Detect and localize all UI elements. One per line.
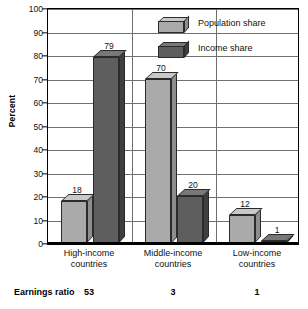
vertical-gridline: [132, 9, 133, 244]
x-axis-category-label: Low-incomecountries: [209, 248, 305, 270]
category-label-line: countries: [125, 259, 221, 270]
legend-label-income-share: Income share: [198, 43, 253, 53]
dark-cube-icon: [158, 42, 184, 58]
y-tick-label: 30: [0, 169, 43, 178]
plot-area: 0102030405060708090100 18797020121 Popul…: [47, 8, 299, 245]
legend-item-income-share[interactable]: Income share: [158, 38, 308, 63]
light-cube-icon: [158, 17, 184, 33]
bar-side-face: [119, 51, 125, 243]
y-tick-label: 80: [0, 52, 43, 61]
y-tick-label: 40: [0, 146, 43, 155]
y-tick-label: 0: [0, 240, 43, 249]
bar[interactable]: [177, 196, 203, 243]
y-tick-label: 60: [0, 99, 43, 108]
y-tick-label: 100: [0, 5, 43, 14]
bar-front-face: [93, 57, 119, 243]
category-label-line: countries: [41, 259, 137, 270]
earnings-ratio-value: 3: [148, 287, 198, 297]
y-tick-label: 10: [0, 216, 43, 225]
earnings-ratio-value: 1: [232, 287, 282, 297]
bar-side-face: [203, 189, 209, 243]
x-axis-category-label: High-incomecountries: [41, 248, 137, 270]
bar-value-label: 79: [89, 42, 129, 51]
bar-front-face: [229, 215, 255, 243]
bar-value-label: 70: [141, 64, 181, 73]
bar[interactable]: [229, 215, 255, 243]
bar-value-label: 18: [57, 186, 97, 195]
bar[interactable]: [145, 79, 171, 244]
bar-value-label: 1: [257, 226, 297, 235]
bar[interactable]: [61, 201, 87, 243]
bar[interactable]: [93, 57, 119, 243]
legend-item-population-share[interactable]: Population share: [158, 13, 308, 38]
axis-baseline: [48, 242, 298, 244]
category-label-line: countries: [209, 259, 305, 270]
y-tick-label: 90: [0, 28, 43, 37]
earnings-ratio-value: 53: [64, 287, 114, 297]
category-label-line: Middle-income: [125, 248, 221, 259]
category-label-line: High-income: [41, 248, 137, 259]
bar-front-face: [61, 201, 87, 243]
bar-front-face: [145, 79, 171, 244]
gridline: [48, 9, 298, 10]
legend: Population share Income share: [158, 13, 308, 63]
bar-value-label: 12: [225, 200, 265, 209]
legend-label-population-share: Population share: [198, 18, 266, 28]
chart-container: Percent 0102030405060708090100 187970201…: [0, 0, 308, 309]
bar-front-face: [177, 196, 203, 243]
y-axis-title: Percent: [7, 81, 17, 141]
y-tick-label: 20: [0, 193, 43, 202]
bar-value-label: 20: [173, 181, 213, 190]
y-tick-label: 50: [0, 122, 43, 131]
y-tick-label: 70: [0, 75, 43, 84]
category-label-line: Low-income: [209, 248, 305, 259]
x-axis-category-label: Middle-incomecountries: [125, 248, 221, 270]
